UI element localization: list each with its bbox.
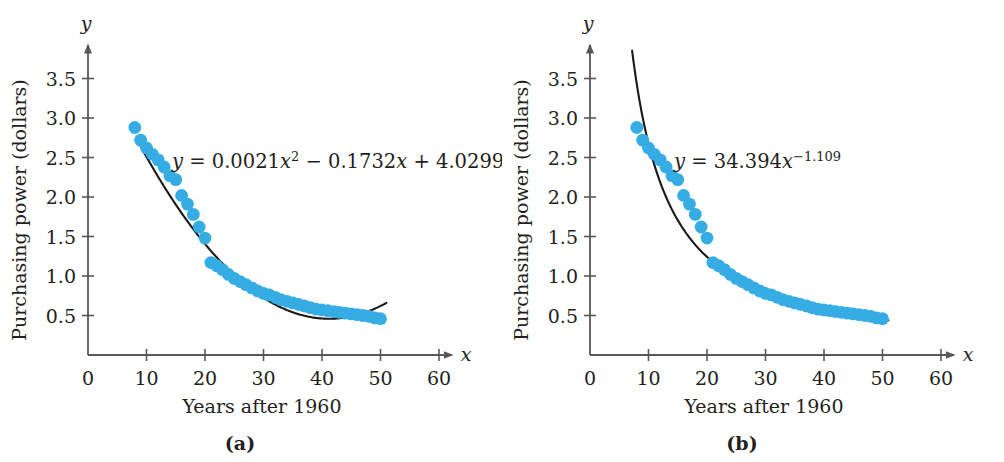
y-axis-title: Purchasing power (dollars) (8, 79, 30, 341)
y-tick-label: 3.0 (46, 107, 76, 129)
y-tick-label: 2.0 (46, 186, 76, 208)
y-tick-label: 2.5 (548, 147, 578, 169)
x-tick-label: 10 (636, 367, 660, 389)
data-point (374, 312, 387, 325)
chart-panel-b: 0.51.01.52.02.53.03.50102030405060yxYear… (502, 0, 1004, 462)
data-point (199, 232, 212, 245)
y-tick-label: 3.5 (548, 68, 578, 90)
x-tick-label: 10 (134, 367, 158, 389)
equation-text: y = 0.0021x2 − 0.1732x + 4.0299 (171, 149, 502, 173)
data-point (695, 221, 708, 234)
figure-root: 0.51.01.52.02.53.03.50102030405060yxYear… (0, 0, 1004, 462)
y-axis-name: y (582, 12, 594, 34)
chart-b-canvas: 0.51.01.52.02.53.03.50102030405060yxYear… (502, 0, 1004, 462)
y-tick-group: 0.51.01.52.02.53.03.5 (548, 68, 596, 327)
x-axis-name: x (461, 343, 472, 365)
x-axis-title: Years after 1960 (181, 395, 341, 417)
data-point (630, 121, 643, 134)
data-point (169, 173, 182, 186)
equation-text: y = 34.394x−1.109 (673, 149, 841, 173)
fitted-curve-b (632, 51, 888, 321)
x-tick-label: 0 (82, 367, 94, 389)
data-point (689, 208, 702, 221)
data-point (671, 173, 684, 186)
equation-label-b: y = 34.394x−1.109 (673, 149, 841, 173)
y-tick-label: 2.0 (548, 186, 578, 208)
panel-label-a: (a) (225, 432, 255, 454)
x-tick-label: 60 (929, 367, 953, 389)
x-tick-label: 30 (753, 367, 777, 389)
x-tick-label: 40 (812, 367, 836, 389)
data-point (187, 208, 200, 221)
y-tick-label: 0.5 (46, 305, 76, 327)
x-tick-label: 0 (584, 367, 596, 389)
panel-label-b: (b) (726, 432, 757, 454)
x-axis-name: x (963, 343, 974, 365)
chart-a-canvas: 0.51.01.52.02.53.03.50102030405060yxYear… (0, 0, 502, 462)
y-tick-label: 1.5 (46, 226, 76, 248)
data-point (128, 121, 141, 134)
data-point (876, 312, 889, 325)
x-tick-label: 20 (193, 367, 217, 389)
x-tick-label: 30 (251, 367, 275, 389)
y-axis-name: y (80, 12, 92, 34)
y-tick-group: 0.51.01.52.02.53.03.5 (46, 68, 94, 327)
equation-label-a: y = 0.0021x2 − 0.1732x + 4.0299 (171, 149, 502, 173)
axes-group-b (590, 45, 954, 355)
data-point (193, 221, 206, 234)
x-tick-label: 40 (310, 367, 334, 389)
y-tick-label: 1.0 (46, 265, 76, 287)
axes-group-a (88, 45, 452, 355)
y-tick-label: 2.5 (46, 147, 76, 169)
y-axis-title: Purchasing power (dollars) (510, 79, 532, 341)
x-axis-title: Years after 1960 (683, 395, 843, 417)
x-tick-label: 60 (427, 367, 451, 389)
x-tick-label: 20 (695, 367, 719, 389)
y-tick-label: 0.5 (548, 305, 578, 327)
y-tick-label: 1.0 (548, 265, 578, 287)
x-tick-label: 50 (870, 367, 894, 389)
y-tick-label: 1.5 (548, 226, 578, 248)
y-tick-label: 3.0 (548, 107, 578, 129)
y-tick-label: 3.5 (46, 68, 76, 90)
x-tick-label: 50 (368, 367, 392, 389)
data-point (701, 232, 714, 245)
chart-panel-a: 0.51.01.52.02.53.03.50102030405060yxYear… (0, 0, 502, 462)
